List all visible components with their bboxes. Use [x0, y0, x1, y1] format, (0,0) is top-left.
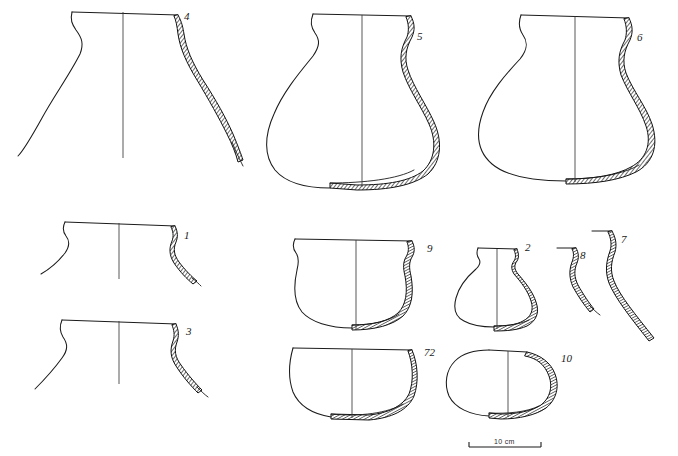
- vessel-10-label: 10: [561, 352, 573, 364]
- vessel-1-label: 1: [184, 229, 190, 241]
- pottery-plate: 4 5 6 1 3: [0, 0, 678, 456]
- vessel-5-label: 5: [417, 30, 423, 42]
- vessel-7-label: 7: [621, 233, 627, 245]
- plate-background: [0, 0, 678, 456]
- vessel-8-label: 8: [580, 249, 586, 261]
- vessel-6-label: 6: [637, 31, 643, 43]
- vessel-9-label: 9: [427, 242, 433, 254]
- vessel-3-label: 3: [185, 325, 192, 337]
- vessel-2-label: 2: [525, 241, 531, 253]
- vessel-4-label: 4: [184, 10, 190, 22]
- vessel-72-label: 72: [424, 346, 436, 358]
- scale-bar-label: 10 cm: [494, 438, 515, 445]
